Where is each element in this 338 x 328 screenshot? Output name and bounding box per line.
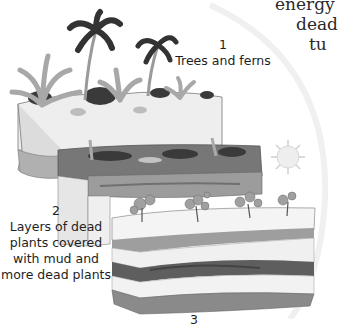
- body-text-fragment-dead: dead: [296, 14, 338, 34]
- stage-1-number: 1: [168, 37, 278, 53]
- stage-2-line-2: plants covered: [0, 235, 112, 251]
- stage-2-line-1: Layers of dead: [0, 219, 112, 235]
- sun-icon: [271, 140, 305, 174]
- block-3-rock-layers: [112, 192, 315, 314]
- stage-2-line-4: more dead plants: [0, 267, 112, 283]
- stage-2-caption: 2 Layers of dead plants covered with mud…: [0, 203, 112, 283]
- stage-2-line-3: with mud and: [0, 251, 112, 267]
- stage-1-label: Trees and ferns: [168, 53, 278, 69]
- stage-3-number: 3: [184, 312, 204, 328]
- stage-2-number: 2: [0, 203, 112, 219]
- body-text-fragment-energy: energy: [275, 0, 335, 14]
- body-text-fragment-tu: tu: [309, 34, 327, 54]
- stage-1-caption: 1 Trees and ferns: [168, 37, 278, 69]
